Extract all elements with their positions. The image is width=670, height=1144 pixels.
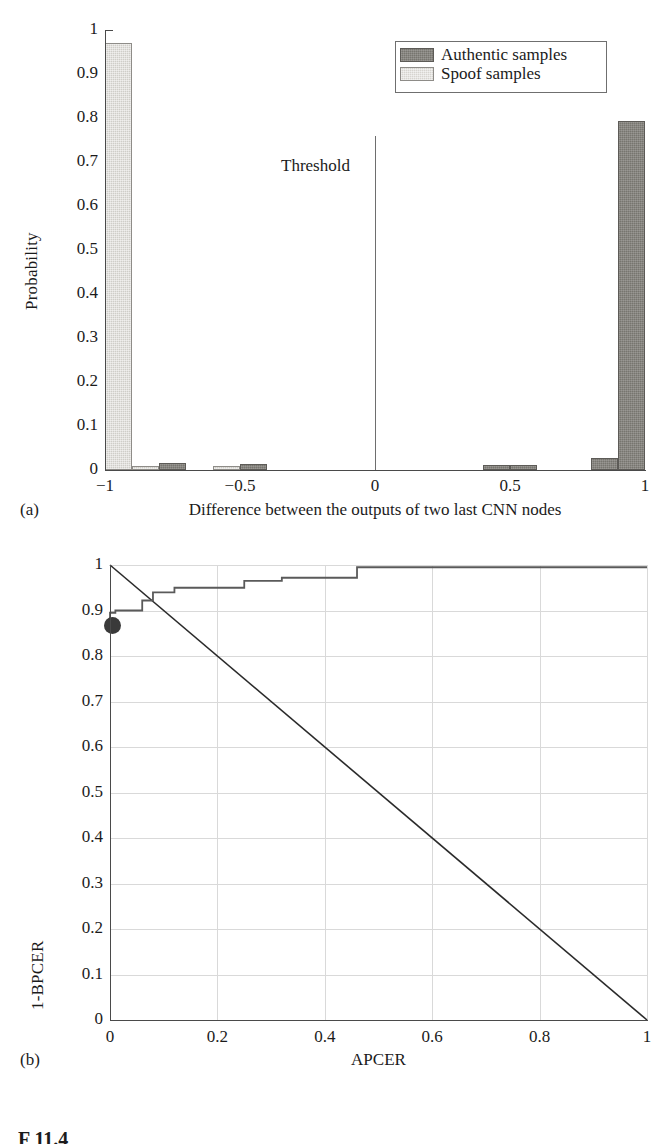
panel-a-y-tick-label: 0.8 <box>40 107 98 127</box>
panel-b-y-tick-label: 0.8 <box>45 645 103 665</box>
panel-b-plot-area <box>110 565 647 1020</box>
panel-b-x-tick-label: 0.6 <box>402 1027 462 1047</box>
panel-b-y-tick-label: 0.4 <box>45 827 103 847</box>
panel-b-x-tick-label: 0 <box>80 1027 140 1047</box>
panel-b-y-tick-label: 0.6 <box>45 736 103 756</box>
panel-a-y-tick-label: 0.5 <box>40 239 98 259</box>
roc-curve-path <box>110 567 647 625</box>
panel-b-x-axis-line <box>110 1020 648 1021</box>
panel-b-x-tick-label: 0.4 <box>295 1027 355 1047</box>
panel-a-plot-area <box>105 30 645 470</box>
panel-b-sub-label: (b) <box>20 1050 40 1070</box>
threshold-line <box>375 136 376 470</box>
legend-swatch-spoof-icon <box>400 67 434 81</box>
panel-a-x-axis-line <box>105 470 646 471</box>
panel-a-x-tick-label: 1 <box>615 476 670 496</box>
figure-caption: F 11.4 <box>18 1128 238 1144</box>
panel-b-y-tick-label: 0.1 <box>45 964 103 984</box>
eer-line-path <box>110 565 647 1020</box>
panel-a-y-tick-label: 0.7 <box>40 151 98 171</box>
figure-container: Probability 00.10.20.30.40.50.60.70.80.9… <box>0 0 670 1144</box>
panel-a-x-tick-label: 0 <box>345 476 405 496</box>
panel-b-roc: 1-BPCER 00.10.20.30.40.50.60.70.80.91 00… <box>0 530 670 1144</box>
legend-row-spoof: Spoof samples <box>400 64 601 83</box>
panel-b-y-axis-line <box>110 565 111 1021</box>
panel-a-y-tick-label: 0.4 <box>40 283 98 303</box>
panel-a-legend: Authentic samples Spoof samples <box>395 41 607 93</box>
panel-a-y-axis-line <box>105 30 106 471</box>
panel-b-gridline-v <box>647 565 648 1020</box>
legend-label-spoof: Spoof samples <box>441 65 541 82</box>
panel-a-sub-label: (a) <box>20 500 39 520</box>
panel-a-x-tick-label: −0.5 <box>210 476 270 496</box>
panel-a-y-tick-label: 0.6 <box>40 195 98 215</box>
panel-a-y-tick-label: 1 <box>40 19 98 39</box>
panel-a-x-axis-title: Difference between the outputs of two la… <box>105 500 645 520</box>
panel-a-y-axis-title: Probability <box>22 232 42 310</box>
panel-a-y-tick-label: 0.2 <box>40 371 98 391</box>
panel-b-y-tick-label: 0.3 <box>45 873 103 893</box>
histogram-bar <box>618 121 645 470</box>
panel-a-histogram: Probability 00.10.20.30.40.50.60.70.80.9… <box>0 0 670 520</box>
panel-b-x-tick-label: 1 <box>617 1027 670 1047</box>
panel-b-x-tick-label: 0.8 <box>510 1027 570 1047</box>
panel-a-y-tick-label: 0.9 <box>40 63 98 83</box>
histogram-bar <box>105 43 132 470</box>
panel-a-x-tick-label: −1 <box>75 476 135 496</box>
panel-b-y-tick-label: 0.9 <box>45 600 103 620</box>
operating-point-marker <box>104 617 121 634</box>
threshold-label: Threshold <box>281 156 350 176</box>
legend-row-authentic: Authentic samples <box>400 45 601 64</box>
panel-b-x-tick-label: 0.2 <box>187 1027 247 1047</box>
panel-b-y-tick-label: 1 <box>45 554 103 574</box>
legend-label-authentic: Authentic samples <box>441 46 567 63</box>
panel-a-y-tick-label: 0.3 <box>40 327 98 347</box>
panel-b-curves <box>110 565 647 1020</box>
panel-b-y-tick-label: 0.2 <box>45 918 103 938</box>
histogram-bar <box>591 458 618 470</box>
panel-b-y-tick-label: 0 <box>45 1009 103 1029</box>
panel-a-x-tick-label: 0.5 <box>480 476 540 496</box>
legend-swatch-authentic-icon <box>400 48 434 62</box>
panel-b-x-axis-title: APCER <box>110 1050 647 1070</box>
panel-a-y-tick-label: 0.1 <box>40 415 98 435</box>
histogram-bar <box>159 463 186 470</box>
panel-b-y-tick-label: 0.7 <box>45 691 103 711</box>
panel-b-y-tick-label: 0.5 <box>45 782 103 802</box>
